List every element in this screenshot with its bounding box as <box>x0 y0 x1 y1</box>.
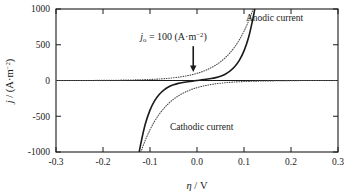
butler-volmer-chart-figure: -0.3-0.2-0.10.00.10.20.3 -1000-500050010… <box>0 0 355 195</box>
y-tick-label: 0 <box>45 76 50 86</box>
y-axis-units-open: / (A·m <box>4 69 16 100</box>
x-axis-title: η / V <box>187 180 208 191</box>
down-arrow-icon <box>190 46 196 72</box>
x-axis-units: / V <box>192 180 208 191</box>
y-tick-label: 1000 <box>31 4 50 14</box>
y-axis-tick-labels: -1000-50005001000 <box>28 4 50 157</box>
x-tick-label: 0.1 <box>238 157 250 167</box>
y-axis-units-close: ) <box>4 58 16 62</box>
x-tick-label: -0.1 <box>142 157 157 167</box>
x-tick-label: 0.3 <box>332 157 344 167</box>
y-tick-label: -500 <box>33 112 51 122</box>
y-axis-title: j / (A·m−2) <box>4 58 16 105</box>
annot-close-paren: ) <box>203 31 206 43</box>
cathodic-current-label: Cathodic current <box>170 122 234 132</box>
x-tick-label: -0.3 <box>48 157 63 167</box>
x-tick-label: 0.0 <box>191 157 203 167</box>
y-tick-label: 500 <box>36 40 51 50</box>
curve-cathodic-partial <box>112 81 338 196</box>
anodic-current-label: Anodic current <box>246 13 304 23</box>
x-tick-label: 0.2 <box>285 157 297 167</box>
x-tick-label: -0.2 <box>95 157 110 167</box>
annot-equals-value: = 100 (A·m <box>146 31 196 43</box>
chart-canvas: -0.3-0.2-0.10.00.10.20.3 -1000-500050010… <box>0 0 355 195</box>
exchange-current-annotation: jo = 100 (A·m−2) <box>138 31 207 43</box>
y-tick-label: -1000 <box>28 147 50 157</box>
x-axis-tick-labels: -0.3-0.2-0.10.00.10.20.3 <box>48 157 344 167</box>
